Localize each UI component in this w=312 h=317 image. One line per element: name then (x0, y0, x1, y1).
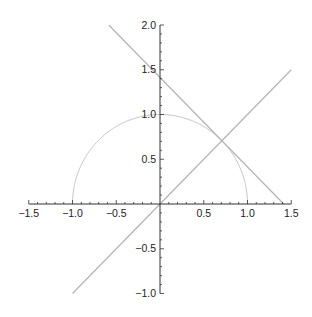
tangent-line (109, 25, 284, 204)
x-tick-label: 1.0 (240, 207, 255, 219)
x-tick-label: 1.5 (284, 207, 299, 219)
y-tick-label: 2.0 (141, 19, 156, 31)
y-tick-label: −1.0 (135, 287, 156, 299)
x-tick-label: −1.0 (62, 207, 83, 219)
x-tick-label: −1.5 (18, 207, 39, 219)
x-tick-label: 0.5 (196, 207, 211, 219)
y-tick-label: 0.5 (141, 153, 156, 165)
x-tick-label: −0.5 (106, 207, 127, 219)
y-tick-label: 1.0 (141, 108, 156, 120)
line-y-equals-x (73, 70, 292, 294)
y-tick-label: −0.5 (135, 242, 156, 254)
plot-canvas: −1.5−1.0−0.50.51.01.5−1.0−0.50.51.01.52.… (0, 0, 312, 317)
y-tick-label: 1.5 (141, 63, 156, 75)
